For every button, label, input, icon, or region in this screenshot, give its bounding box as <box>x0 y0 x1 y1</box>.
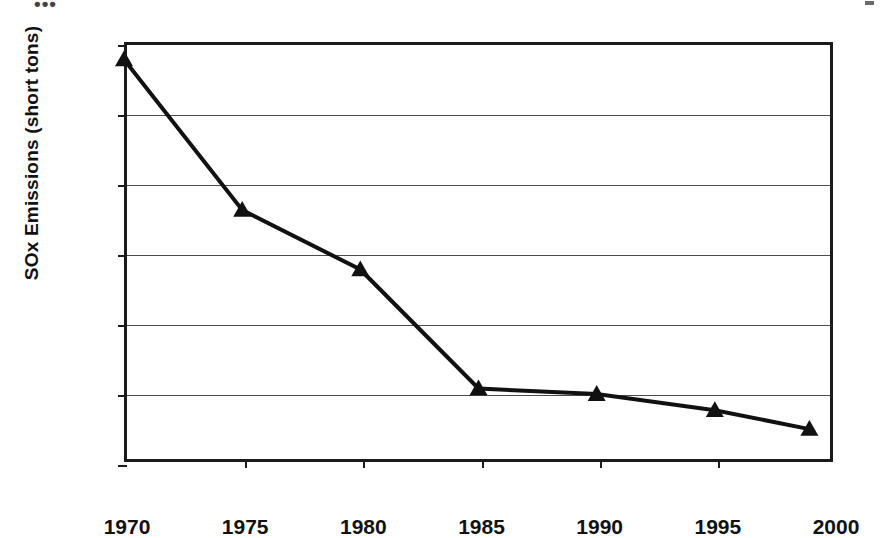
x-tick-label: 1995 <box>663 515 773 538</box>
y-axis-title: SOx Emissions (short tons) <box>21 0 43 313</box>
gridline-horizontal <box>127 255 830 256</box>
y-tick-mark <box>118 45 127 47</box>
y-tick-mark <box>118 255 127 257</box>
gridline-horizontal <box>127 115 830 116</box>
gridline-horizontal <box>127 185 830 186</box>
x-tick-mark <box>245 459 247 468</box>
x-tick-label: 1975 <box>190 515 300 538</box>
x-tick-label: 2000 <box>781 515 882 538</box>
y-tick-mark <box>118 395 127 397</box>
x-tick-mark <box>718 459 720 468</box>
gridline-horizontal <box>127 395 830 396</box>
x-tick-label: 1985 <box>427 515 537 538</box>
plot-area: 2000300040005000600070008000197019751980… <box>124 42 833 462</box>
x-tick-mark <box>600 459 602 468</box>
x-tick-mark <box>363 459 365 468</box>
x-tick-label: 1990 <box>545 515 655 538</box>
y-tick-mark <box>118 185 127 187</box>
x-tick-label: 1970 <box>72 515 182 538</box>
gridline-horizontal <box>127 325 830 326</box>
x-tick-mark <box>482 459 484 468</box>
x-tick-label: 1980 <box>308 515 418 538</box>
y-tick-mark <box>118 115 127 117</box>
y-tick-mark <box>118 325 127 327</box>
y-tick-mark <box>118 465 127 467</box>
